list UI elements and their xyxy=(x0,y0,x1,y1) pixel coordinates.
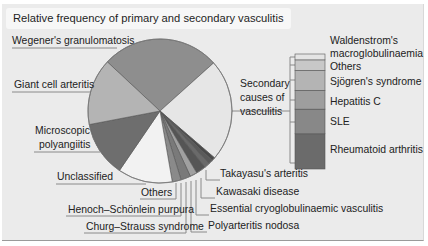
bar-segment xyxy=(295,54,325,60)
bar-label-hepatitis-c: Hepatitis C xyxy=(330,96,381,108)
label-takayasu: Takayasu's arteritis xyxy=(220,168,308,180)
label-henoch: Henoch–Schönlein purpura xyxy=(68,204,194,216)
label-others: Others xyxy=(141,187,172,199)
bar-label-waldenstrom-1: Waldenstrom's xyxy=(330,35,398,47)
label-wegener: Wegener's granulomatosis xyxy=(12,35,135,47)
label-microscopic-1: Microscopic xyxy=(35,125,90,137)
label-giant-cell: Giant cell arteritis xyxy=(14,79,94,91)
bar-segment xyxy=(295,70,325,90)
bar-label-rheumatoid: Rheumatoid arthritis xyxy=(330,144,423,156)
bar-segment xyxy=(295,90,325,109)
pie-chart xyxy=(88,39,232,183)
label-pan: Polyarteritis nodosa xyxy=(208,220,299,232)
label-secondary-1: Secondary xyxy=(240,78,290,90)
label-churg: Churg–Strauss syndrome xyxy=(86,221,204,233)
label-microscopic-2: polyangiitis xyxy=(39,139,90,151)
bar-label-waldenstrom-2: macroglobulinaemia xyxy=(330,48,423,60)
label-kawasaki: Kawasaki disease xyxy=(216,186,299,198)
bar-segment xyxy=(295,134,325,169)
stacked-bar xyxy=(295,54,325,169)
label-unclassified: Unclassified xyxy=(57,171,113,183)
bar-label-sjogren: Sjögren's syndrome xyxy=(330,76,422,88)
label-secondary-3: vasculitis xyxy=(240,106,282,118)
bar-segment xyxy=(295,60,325,71)
bar-label-others: Others xyxy=(330,61,361,73)
label-cryo: Essential cryoglobulinaemic vasculitis xyxy=(210,203,383,215)
bar-label-sle: SLE xyxy=(330,116,350,128)
label-secondary-2: causes of xyxy=(240,92,284,104)
bar-segment xyxy=(295,109,325,134)
